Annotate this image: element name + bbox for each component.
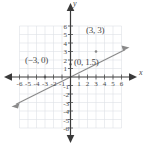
y-tick-label: -6 (63, 125, 69, 133)
x-tick-label: 3 (94, 80, 98, 88)
x-tick-label: 1 (77, 80, 81, 88)
x-axis-label: x (139, 68, 143, 77)
y-tick-label: 5 (64, 31, 68, 39)
x-tick-label: -2 (51, 80, 57, 88)
x-tick-label: 4 (103, 80, 107, 88)
coordinate-plane-figure: -6 -5 -4 -3 -2 -1 1 2 3 4 5 6 6 5 4 3 2 … (0, 0, 150, 144)
x-tick-label: -4 (34, 80, 40, 88)
y-tick-label: -3 (63, 100, 69, 108)
y-tick-label: 3 (64, 48, 68, 56)
y-tick-label: -1 (63, 83, 69, 91)
graph-canvas: -6 -5 -4 -3 -2 -1 1 2 3 4 5 6 6 5 4 3 2 … (0, 0, 150, 144)
y-tick-label: 2 (64, 57, 68, 65)
point-label-0-1point5: (0, 1.5) (74, 57, 99, 67)
x-tick-label: 6 (120, 80, 124, 88)
y-tick-label: 1 (64, 65, 68, 73)
point-label-3-3: (3, 3) (86, 25, 104, 35)
x-tick-label: -5 (25, 80, 31, 88)
x-tick-label: -3 (42, 80, 48, 88)
point-label-minus3-0: (−3, 0) (25, 55, 48, 65)
y-tick-label: -5 (63, 117, 69, 125)
y-tick-label: -4 (63, 108, 69, 116)
x-tick-label: 5 (111, 80, 115, 88)
y-tick-label: 4 (64, 40, 68, 48)
y-axis-label: y (73, 0, 77, 8)
x-tick-label: -6 (17, 80, 23, 88)
y-tick-label: 6 (64, 23, 68, 31)
x-tick-label: 2 (86, 80, 90, 88)
y-tick-label: -2 (63, 91, 69, 99)
axes (8, 7, 133, 140)
